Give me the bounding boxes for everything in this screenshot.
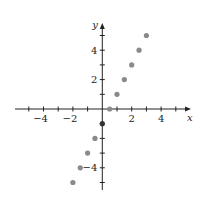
data-point xyxy=(107,106,112,111)
data-point xyxy=(100,121,105,126)
data-point xyxy=(136,48,141,53)
data-point xyxy=(122,77,127,82)
x-tick-label: 4 xyxy=(158,113,164,124)
y-tick-label: 4 xyxy=(91,45,97,56)
y-axis-label: y xyxy=(91,19,98,30)
x-axis-arrow-icon xyxy=(185,107,191,112)
data-point xyxy=(78,165,83,170)
x-tick-label: 2 xyxy=(129,113,135,124)
y-tick-label: −4 xyxy=(83,162,98,173)
data-point xyxy=(129,62,134,67)
y-tick-label: 2 xyxy=(91,74,97,85)
data-point xyxy=(92,136,97,141)
x-tick-label: −2 xyxy=(63,113,78,124)
data-point xyxy=(70,180,75,185)
x-axis-label: x xyxy=(187,112,193,123)
data-point xyxy=(85,151,90,156)
data-point xyxy=(144,33,149,38)
axes xyxy=(15,23,191,190)
scatter-chart: −4−22442−4 x y xyxy=(0,0,203,200)
y-axis-arrow-icon xyxy=(100,23,105,29)
data-point xyxy=(114,92,119,97)
x-tick-label: −4 xyxy=(33,113,48,124)
